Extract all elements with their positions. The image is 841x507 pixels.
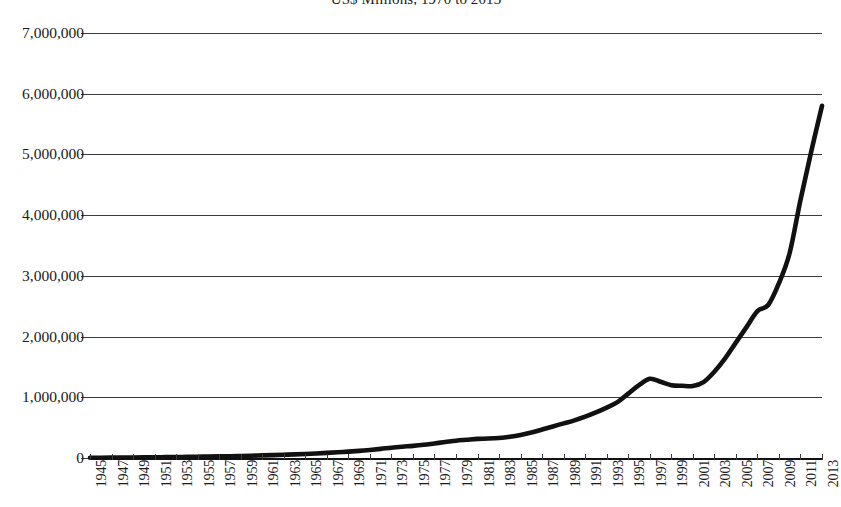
series-path xyxy=(90,106,822,458)
x-axis-tick xyxy=(822,454,823,460)
x-axis-tick-label: 1969 xyxy=(353,460,367,487)
x-axis-tick-label: 1993 xyxy=(612,460,626,487)
x-axis-tick xyxy=(90,454,91,460)
y-axis-tick-label: 0 xyxy=(0,450,84,466)
y-axis-tick-label: 2,000,000 xyxy=(0,329,84,345)
plot-area xyxy=(90,33,822,458)
x-axis-tick xyxy=(133,454,134,460)
x-axis-tick xyxy=(521,454,522,460)
data-series-line xyxy=(90,33,822,458)
x-axis-tick-label: 1983 xyxy=(504,460,518,487)
x-axis-tick-label: 1965 xyxy=(310,460,324,487)
x-axis-tick-label: 1999 xyxy=(676,460,690,487)
x-axis-tick xyxy=(112,454,113,460)
x-axis-tick-label: 1967 xyxy=(332,460,346,487)
x-axis-tick-label: 1989 xyxy=(569,460,583,487)
y-axis-tick-label: 1,000,000 xyxy=(0,389,84,405)
x-axis-tick xyxy=(155,454,156,460)
x-axis-tick-label: 1961 xyxy=(267,460,281,487)
x-axis-tick xyxy=(413,454,414,460)
x-axis-tick xyxy=(241,454,242,460)
x-axis-tick-label: 1971 xyxy=(375,460,389,487)
x-axis-tick-label: 2009 xyxy=(784,460,798,487)
x-axis-tick xyxy=(219,454,220,460)
x-axis-labels: 1945194719491951195319551957195919611963… xyxy=(90,460,822,507)
x-axis-tick xyxy=(779,454,780,460)
x-axis-tick-label: 1947 xyxy=(117,460,131,487)
x-axis-tick-label: 1945 xyxy=(95,460,109,487)
x-axis-tick-label: 1991 xyxy=(590,460,604,487)
x-axis-tick xyxy=(370,454,371,460)
x-axis-tick-label: 1975 xyxy=(418,460,432,487)
x-axis-tick-label: 2003 xyxy=(719,460,733,487)
y-axis-tick-label: 7,000,000 xyxy=(0,25,84,41)
x-axis-tick-label: 1981 xyxy=(483,460,497,487)
x-axis-tick xyxy=(456,454,457,460)
x-axis-tick xyxy=(714,454,715,460)
x-axis-tick xyxy=(284,454,285,460)
x-axis-tick xyxy=(757,454,758,460)
x-axis-tick xyxy=(585,454,586,460)
y-axis-tick-label: 3,000,000 xyxy=(0,268,84,284)
x-axis-tick xyxy=(391,454,392,460)
x-axis-tick-label: 1951 xyxy=(160,460,174,487)
x-axis-tick-label: 1957 xyxy=(224,460,238,487)
x-axis-tick-label: 1963 xyxy=(289,460,303,487)
x-axis-tick-label: 2005 xyxy=(741,460,755,487)
x-axis-tick xyxy=(305,454,306,460)
x-axis-tick xyxy=(478,454,479,460)
x-axis-tick xyxy=(434,454,435,460)
x-axis-tick xyxy=(800,454,801,460)
x-axis-tick xyxy=(542,454,543,460)
x-axis-tick-label: 1995 xyxy=(633,460,647,487)
x-axis-tick-label: 2011 xyxy=(805,460,819,487)
x-axis-tick xyxy=(650,454,651,460)
x-axis-tick xyxy=(327,454,328,460)
x-axis-tick-label: 1949 xyxy=(138,460,152,487)
x-axis-tick-label: 2007 xyxy=(762,460,776,487)
x-axis-tick-label: 1959 xyxy=(246,460,260,487)
y-axis-tick-label: 4,000,000 xyxy=(0,207,84,223)
x-axis-tick-label: 1973 xyxy=(396,460,410,487)
x-axis-tick-label: 1979 xyxy=(461,460,475,487)
y-axis-tick-label: 6,000,000 xyxy=(0,86,84,102)
x-axis-tick xyxy=(564,454,565,460)
x-axis-tick-label: 1953 xyxy=(181,460,195,487)
x-axis-tick xyxy=(736,454,737,460)
x-axis-tick xyxy=(628,454,629,460)
x-axis-tick xyxy=(607,454,608,460)
x-axis-tick xyxy=(262,454,263,460)
x-axis-tick xyxy=(348,454,349,460)
chart-subtitle: US$ Millions, 1970 to 2013 xyxy=(0,0,832,5)
x-axis-tick-label: 1997 xyxy=(655,460,669,487)
x-axis-tick-label: 1955 xyxy=(203,460,217,487)
x-axis-tick-label: 1987 xyxy=(547,460,561,487)
x-axis-tick-label: 1985 xyxy=(526,460,540,487)
x-axis-tick xyxy=(693,454,694,460)
x-axis-tick xyxy=(198,454,199,460)
x-axis-tick-label: 1977 xyxy=(439,460,453,487)
x-axis-tick xyxy=(176,454,177,460)
x-axis-tick xyxy=(499,454,500,460)
y-axis-tick-label: 5,000,000 xyxy=(0,146,84,162)
x-axis-tick-label: 2001 xyxy=(698,460,712,487)
x-axis-tick xyxy=(671,454,672,460)
x-axis-tick-label: 2013 xyxy=(827,460,841,487)
